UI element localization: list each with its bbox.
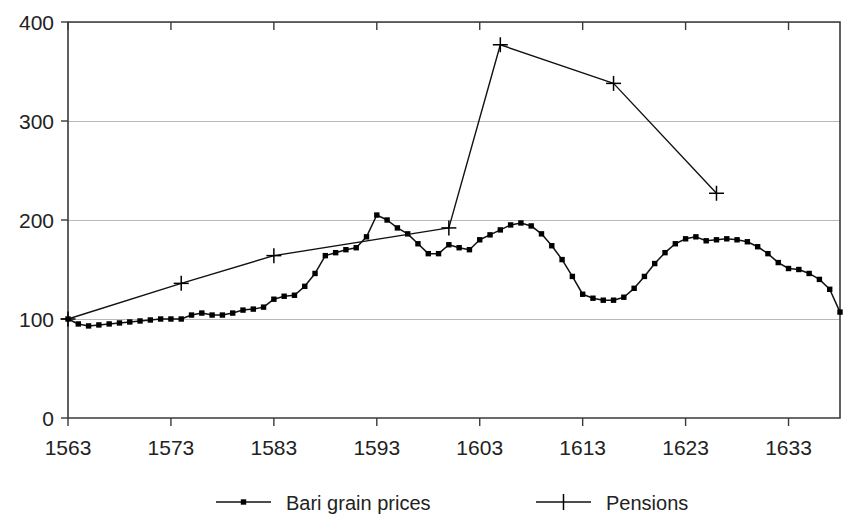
data-point-marker bbox=[827, 287, 832, 292]
data-point-marker bbox=[384, 217, 389, 222]
data-point-marker bbox=[76, 321, 81, 326]
data-point-marker bbox=[179, 316, 184, 321]
x-tick-label: 1603 bbox=[456, 436, 503, 459]
data-point-marker bbox=[312, 271, 317, 276]
data-point-marker bbox=[415, 241, 420, 246]
data-point-marker bbox=[446, 242, 451, 247]
x-tick-label: 1563 bbox=[45, 436, 92, 459]
data-point-marker bbox=[529, 223, 534, 228]
data-point-marker bbox=[765, 251, 770, 256]
data-point-marker bbox=[776, 260, 781, 265]
data-point-marker bbox=[745, 239, 750, 244]
data-point-marker bbox=[395, 225, 400, 230]
gridlines bbox=[68, 22, 840, 319]
data-point-marker bbox=[796, 267, 801, 272]
data-point-marker bbox=[96, 322, 101, 327]
data-point-marker bbox=[261, 304, 266, 309]
data-point-marker bbox=[333, 250, 338, 255]
data-point-marker bbox=[508, 222, 513, 227]
series-bari-grain-prices bbox=[65, 212, 842, 328]
data-point-marker bbox=[343, 247, 348, 252]
data-point-marker bbox=[673, 241, 678, 246]
y-tick-label: 200 bbox=[19, 209, 54, 232]
x-tick-label: 1573 bbox=[148, 436, 195, 459]
data-point-marker bbox=[652, 261, 657, 266]
x-tick-label: 1613 bbox=[559, 436, 606, 459]
data-point-marker bbox=[662, 250, 667, 255]
data-point-marker bbox=[559, 257, 564, 262]
data-point-marker bbox=[518, 220, 523, 225]
data-point-marker bbox=[220, 312, 225, 317]
legend-dot-marker-icon bbox=[241, 499, 246, 504]
data-point-marker bbox=[158, 316, 163, 321]
data-point-marker bbox=[590, 296, 595, 301]
data-point-marker bbox=[817, 277, 822, 282]
data-point-marker bbox=[693, 234, 698, 239]
data-point-marker bbox=[137, 318, 142, 323]
y-tick-label: 100 bbox=[19, 308, 54, 331]
x-tick-label: 1583 bbox=[251, 436, 298, 459]
legend-item-bari-grain-prices: Bari grain prices bbox=[216, 492, 431, 514]
chart-figure: 0100200300400 15631573158315931603161316… bbox=[0, 0, 853, 528]
data-point-marker bbox=[436, 251, 441, 256]
data-point-marker bbox=[631, 286, 636, 291]
x-tick-label: 1633 bbox=[765, 436, 812, 459]
data-point-marker bbox=[570, 274, 575, 279]
data-point-marker bbox=[477, 237, 482, 242]
data-point-marker bbox=[467, 247, 472, 252]
data-point-marker bbox=[703, 238, 708, 243]
data-point-marker bbox=[611, 297, 616, 302]
data-point-marker bbox=[539, 231, 544, 236]
data-point-marker bbox=[271, 297, 276, 302]
data-point-marker bbox=[281, 294, 286, 299]
data-point-marker bbox=[456, 245, 461, 250]
data-point-marker bbox=[734, 237, 739, 242]
legend-label: Bari grain prices bbox=[286, 492, 431, 514]
data-point-marker bbox=[806, 271, 811, 276]
data-point-marker bbox=[199, 310, 204, 315]
data-point-marker bbox=[549, 243, 554, 248]
data-point-marker bbox=[168, 316, 173, 321]
x-tick-label: 1623 bbox=[662, 436, 709, 459]
legend-label: Pensions bbox=[606, 492, 688, 514]
data-point-marker bbox=[292, 293, 297, 298]
y-tick-label: 0 bbox=[42, 407, 54, 430]
data-point-marker bbox=[106, 321, 111, 326]
data-point-marker bbox=[240, 307, 245, 312]
data-point-marker bbox=[86, 323, 91, 328]
data-point-marker bbox=[127, 319, 132, 324]
data-point-marker bbox=[714, 237, 719, 242]
data-point-marker bbox=[117, 320, 122, 325]
data-point-marker bbox=[621, 295, 626, 300]
data-point-marker bbox=[724, 236, 729, 241]
data-point-marker bbox=[642, 274, 647, 279]
data-point-marker bbox=[302, 284, 307, 289]
data-point-marker bbox=[837, 309, 842, 314]
data-point-marker bbox=[209, 312, 214, 317]
data-point-marker bbox=[786, 266, 791, 271]
data-point-marker bbox=[148, 317, 153, 322]
data-point-marker bbox=[323, 253, 328, 258]
data-point-marker bbox=[189, 312, 194, 317]
y-tick-label: 400 bbox=[19, 11, 54, 34]
data-series bbox=[61, 37, 843, 328]
series-pensions bbox=[61, 37, 724, 326]
data-point-marker bbox=[487, 232, 492, 237]
x-axis-tick-labels: 15631573158315931603161316231633 bbox=[45, 436, 812, 459]
y-tick-label: 300 bbox=[19, 110, 54, 133]
y-axis-tick-labels: 0100200300400 bbox=[19, 11, 54, 430]
data-point-marker bbox=[580, 292, 585, 297]
chart-legend: Bari grain pricesPensions bbox=[216, 492, 688, 514]
data-point-marker bbox=[230, 310, 235, 315]
data-point-marker bbox=[426, 251, 431, 256]
data-point-marker bbox=[374, 212, 379, 217]
data-point-marker bbox=[354, 245, 359, 250]
data-point-marker bbox=[683, 236, 688, 241]
data-point-marker bbox=[251, 306, 256, 311]
x-tick-label: 1593 bbox=[353, 436, 400, 459]
data-point-marker bbox=[755, 244, 760, 249]
line-chart: 0100200300400 15631573158315931603161316… bbox=[0, 0, 853, 528]
data-point-marker bbox=[364, 234, 369, 239]
legend-item-pensions: Pensions bbox=[536, 492, 688, 514]
data-point-marker bbox=[601, 297, 606, 302]
